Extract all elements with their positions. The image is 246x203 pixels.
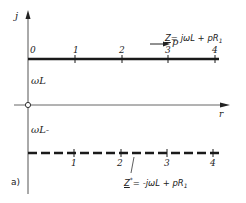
lower-formula-rest: = -jωL + pR (133, 178, 184, 188)
upper-tick-label-3: 3 (165, 46, 171, 55)
impedance-locus-diagram: j r 0 1 2 3 4 p Z= jωL + pR1 ωL ωL- 1 2 … (0, 0, 246, 203)
formula-pointer-line (131, 157, 134, 173)
lower-formula: Z*= -jωL + pR1 (124, 176, 188, 189)
lower-tick-label-2: 2 (117, 159, 123, 168)
lower-omega-l-label: ωL- (31, 125, 49, 135)
panel-label: a) (11, 178, 20, 187)
diagram-graphics (0, 0, 246, 203)
lower-tick-label-3: 3 (164, 159, 170, 168)
lower-formula-sub: 1 (184, 182, 188, 189)
imaginary-axis-arrow-icon (26, 10, 31, 19)
upper-formula-rest: = jωL + pR (171, 33, 219, 43)
real-axis-arrow-icon (220, 103, 230, 108)
origin-marker (25, 102, 30, 107)
upper-omega-l-label: ωL (31, 76, 46, 86)
upper-tick-label-1: 1 (73, 46, 79, 55)
imaginary-axis-label: j (15, 11, 18, 21)
real-axis-label: r (219, 110, 223, 119)
upper-tick-label-0: 0 (30, 46, 36, 55)
lower-tick-label-1: 1 (71, 159, 77, 168)
upper-formula-sub: 1 (219, 37, 223, 44)
lower-tick-label-4: 4 (210, 159, 216, 168)
upper-tick-label-4: 4 (212, 46, 218, 55)
upper-formula: Z= jωL + pR1 (165, 33, 223, 44)
upper-tick-label-2: 2 (119, 46, 125, 55)
